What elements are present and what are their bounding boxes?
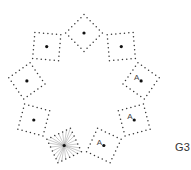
perimeter-dot [102, 158, 104, 160]
perimeter-dot [137, 132, 139, 134]
perimeter-dot [43, 32, 45, 34]
perimeter-dot [108, 56, 110, 58]
perimeter-dot [47, 33, 49, 35]
perimeter-dot [101, 129, 103, 131]
perimeter-dot [102, 32, 104, 34]
perimeter-dot [107, 43, 109, 45]
perimeter-dot [89, 45, 91, 47]
square-label: A [134, 73, 140, 82]
perimeter-dot [26, 65, 28, 67]
perimeter-dot [138, 104, 140, 106]
perimeter-dot [42, 135, 44, 137]
perimeter-dot [130, 107, 132, 109]
square-label: A [97, 138, 103, 147]
perimeter-dot [33, 49, 35, 51]
perimeter-dot [81, 151, 83, 153]
perimeter-dot [144, 108, 146, 110]
perimeter-dot [140, 96, 142, 98]
perimeter-dot [141, 65, 143, 67]
perimeter-dot [8, 77, 10, 79]
perimeter-dot [123, 131, 125, 133]
perimeter-dot [89, 20, 91, 22]
perimeter-dot [70, 127, 72, 129]
perimeter-dot [134, 106, 136, 108]
perimeter-dot [59, 47, 61, 49]
perimeter-dot [37, 73, 39, 75]
perimeter-dot [57, 162, 59, 164]
perimeter-dot [12, 75, 14, 77]
center-dot [140, 79, 143, 82]
perimeter-dot [42, 80, 44, 82]
square-upper-right [106, 32, 136, 62]
perimeter-dot [77, 153, 79, 155]
perimeter-dot [59, 51, 61, 53]
square-right: A [122, 62, 160, 100]
perimeter-dot [26, 96, 28, 98]
perimeter-dot [106, 34, 108, 36]
perimeter-dot [113, 154, 115, 156]
perimeter-dot [98, 157, 100, 159]
perimeter-dot [18, 124, 20, 126]
perimeter-dot [68, 35, 70, 37]
perimeter-dot [88, 147, 90, 149]
perimeter-dot [108, 47, 110, 49]
perimeter-dot [34, 91, 36, 93]
perimeter-dot [111, 158, 113, 160]
perimeter-dot [45, 109, 47, 111]
perimeter-dot [36, 58, 38, 60]
perimeter-dot [51, 33, 53, 35]
perimeter-dot [38, 134, 40, 136]
perimeter-dot [148, 124, 150, 126]
perimeter-dot [115, 150, 117, 152]
perimeter-dot [133, 91, 135, 93]
perimeter-dot [50, 137, 52, 139]
perimeter-dot [144, 98, 146, 100]
perimeter-dot [117, 146, 119, 148]
center-dot [133, 118, 136, 121]
perimeter-dot [77, 20, 79, 22]
perimeter-dot [32, 66, 34, 68]
perimeter-dot [69, 157, 71, 159]
perimeter-dot [65, 32, 67, 34]
perimeter-dot [86, 151, 88, 153]
perimeter-dot [143, 103, 145, 105]
perimeter-dot [13, 84, 15, 86]
perimeter-dot [118, 110, 120, 112]
perimeter-dot [59, 43, 61, 45]
center-dot [25, 79, 28, 82]
perimeter-dot [46, 123, 48, 125]
perimeter-dot [72, 131, 74, 133]
perimeter-dot [119, 142, 121, 144]
perimeter-dot [71, 26, 73, 28]
perimeter-dot [45, 59, 47, 61]
center-dot [102, 144, 105, 147]
perimeter-dot [121, 123, 123, 125]
perimeter-dot [18, 91, 20, 93]
perimeter-dot [54, 135, 56, 137]
perimeter-dot [74, 41, 76, 43]
perimeter-dot [83, 14, 85, 16]
perimeter-dot [94, 155, 96, 157]
perimeter-dot [41, 108, 43, 110]
square-top [65, 14, 103, 52]
perimeter-dot [119, 114, 121, 116]
perimeter-dot [11, 81, 13, 83]
perimeter-dot [136, 93, 138, 95]
perimeter-dot [55, 158, 57, 160]
perimeter-dot [128, 32, 130, 34]
perimeter-dot [96, 38, 98, 40]
perimeter-dot [135, 66, 137, 68]
perimeter-dot [30, 93, 32, 95]
perimeter-dot [25, 131, 27, 133]
perimeter-dot [119, 33, 121, 35]
perimeter-dot [107, 38, 109, 40]
perimeter-dot [135, 58, 137, 60]
perimeter-dot [134, 49, 136, 51]
perimeter-dot [145, 112, 147, 114]
perimeter-dot [47, 118, 49, 120]
perimeter-dot [29, 62, 31, 64]
perimeter-dot [58, 60, 60, 62]
perimeter-dot [50, 146, 52, 148]
perimeter-dot [58, 56, 60, 58]
perimeter-dot [52, 150, 54, 152]
